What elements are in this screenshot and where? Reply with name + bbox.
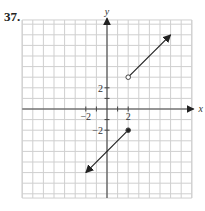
svg-text:2: 2 [98,83,103,94]
svg-text:y: y [104,6,110,17]
axis-labels: −222−2xy [80,6,203,136]
svg-text:−2: −2 [92,125,103,136]
svg-text:−2: −2 [80,111,91,122]
svg-text:x: x [198,103,204,114]
graph: −222−2xy [0,0,205,211]
svg-text:2: 2 [126,111,131,122]
